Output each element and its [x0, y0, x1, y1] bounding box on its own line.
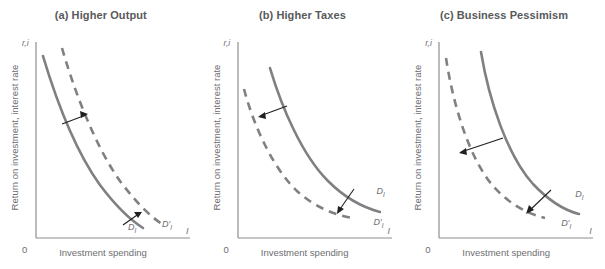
panel-a: (a) Higher Output r,i Return on investme…: [0, 0, 202, 269]
curve-shifted-DI-prime: [62, 48, 165, 226]
panel-b-y-axis-variable: r,i: [224, 38, 231, 48]
panel-a-y-axis-label: Return on investment, interest rate: [9, 48, 20, 228]
panel-a-x-axis-label: Investment spending: [28, 247, 178, 258]
panel-c-origin-label: 0: [425, 244, 430, 255]
panel-c-curve-label-original: DI: [575, 189, 583, 201]
shift-arrow-upper: [459, 138, 503, 155]
panel-c-x-axis-label: Investment spending: [431, 247, 581, 258]
panel-a-curve-label-original: DI: [128, 222, 136, 234]
shift-arrow-lower: [526, 190, 551, 214]
panel-c-x-axis-variable: I: [589, 226, 592, 236]
panel-c-y-axis-label: Return on investment, interest rate: [412, 48, 423, 228]
panel-b-x-axis-label: Investment spending: [230, 247, 380, 258]
panel-a-x-axis-variable: I: [186, 226, 189, 236]
panel-b-DI-prime-subscript: I: [382, 222, 384, 229]
panel-a-y-axis-variable: r,i: [22, 38, 29, 48]
panel-a-DI-prime-subscript: I: [170, 224, 172, 231]
panel-c-y-axis-variable: r,i: [425, 38, 432, 48]
panel-b-curve-label-shifted: D′I: [374, 217, 384, 229]
panel-a-DI-subscript: I: [135, 227, 137, 234]
curve-original-DI: [270, 68, 380, 212]
curve-shifted-DI-prime: [244, 89, 352, 218]
shift-arrow-upper: [258, 106, 287, 119]
panel-b-y-axis-label: Return on investment, interest rate: [210, 48, 221, 228]
panel-a-DI-prime-letter: D′: [162, 219, 170, 229]
panel-a-origin-label: 0: [22, 244, 27, 255]
investment-demand-shift-figure: (a) Higher Output r,i Return on investme…: [0, 0, 605, 269]
curve-shifted-DI-prime: [446, 58, 545, 218]
panel-b-origin-label: 0: [224, 244, 229, 255]
curve-original-DI: [43, 56, 143, 228]
panel-c-plot: [403, 0, 605, 269]
panel-b-DI-subscript: I: [383, 191, 385, 198]
panel-c: (c) Business Pessimism r,i Return on inv…: [403, 0, 605, 269]
panel-b-x-axis-variable: I: [388, 226, 391, 236]
panel-b-curve-label-original: DI: [377, 186, 385, 198]
panel-c-DI-prime-subscript: I: [569, 223, 571, 230]
panel-b: (b) Higher Taxes r,i Return on investmen…: [202, 0, 404, 269]
shift-arrow-upper: [62, 111, 88, 124]
panel-b-DI-prime-letter: D′: [374, 217, 382, 227]
panel-c-DI-subscript: I: [582, 194, 584, 201]
panel-a-curve-label-shifted: D′I: [162, 219, 172, 231]
panel-c-curve-label-shifted: D′I: [561, 218, 571, 230]
